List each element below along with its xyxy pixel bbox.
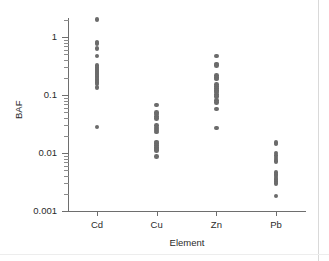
data-point (154, 103, 159, 108)
y-tick-minor (64, 136, 69, 137)
data-point (214, 100, 219, 105)
y-tick-minor (64, 156, 69, 157)
y-tick-minor (64, 60, 69, 61)
y-tick-minor (64, 78, 69, 79)
y-tick-minor (64, 194, 69, 195)
y-tick-minor (64, 159, 69, 160)
y-tick-minor (64, 50, 69, 51)
y-tick-minor (64, 40, 69, 41)
y-tick-minor (64, 162, 69, 163)
data-point (95, 17, 100, 22)
data-point (154, 116, 159, 121)
x-tick (97, 211, 98, 216)
y-tick-major (62, 153, 69, 154)
y-tick-label: 0.1 (44, 90, 57, 100)
x-axis-line (68, 211, 306, 212)
y-tick-minor (64, 43, 69, 44)
y-tick-label: 0.001 (33, 206, 57, 216)
y-tick-label: 0.01 (39, 148, 58, 158)
data-point (214, 54, 219, 59)
y-tick-minor (64, 98, 69, 99)
y-tick-minor (64, 176, 69, 177)
data-point (214, 63, 219, 68)
y-tick-minor (64, 67, 69, 68)
y-tick-minor (64, 125, 69, 126)
y-tick-label: 1 (52, 32, 57, 42)
x-axis-title: Element (68, 238, 306, 248)
data-point (95, 41, 100, 46)
y-tick-minor (64, 54, 69, 55)
y-tick-minor (64, 108, 69, 109)
data-point (274, 159, 279, 164)
y-tick-minor (64, 112, 69, 113)
y-tick-minor (64, 118, 69, 119)
data-point (95, 125, 100, 130)
data-point (274, 142, 279, 147)
data-point (95, 46, 100, 51)
y-tick-minor (64, 101, 69, 102)
x-tick-label-cd: Cd (77, 220, 117, 230)
data-point (95, 85, 100, 90)
data-point (154, 154, 159, 159)
data-point (214, 107, 219, 112)
data-point (274, 181, 279, 186)
x-tick-label-zn: Zn (196, 220, 236, 230)
y-tick-minor (64, 170, 69, 171)
y-tick-major (62, 37, 69, 38)
y-tick-minor (64, 166, 69, 167)
y-tick-minor (64, 20, 69, 21)
page-edge-right (318, 0, 319, 261)
x-tick (216, 211, 217, 216)
data-point (274, 194, 279, 199)
data-point (95, 54, 100, 59)
y-tick-minor (64, 46, 69, 47)
x-tick-label-cu: Cu (137, 220, 177, 230)
data-point (214, 77, 219, 82)
x-tick (157, 211, 158, 216)
x-tick-label-pb: Pb (256, 220, 296, 230)
data-point (214, 126, 219, 131)
y-tick-minor (64, 183, 69, 184)
y-tick-major (62, 95, 69, 96)
x-tick (276, 211, 277, 216)
y-tick-minor (64, 104, 69, 105)
y-axis-title: BAF (14, 80, 24, 140)
data-point (154, 130, 159, 135)
data-point (154, 148, 159, 153)
y-tick-major (62, 211, 69, 212)
page-edge-bottom (0, 254, 329, 255)
scatter-plot-figure: 10.10.010.001 CdCuZnPb BAF Element (0, 0, 329, 261)
